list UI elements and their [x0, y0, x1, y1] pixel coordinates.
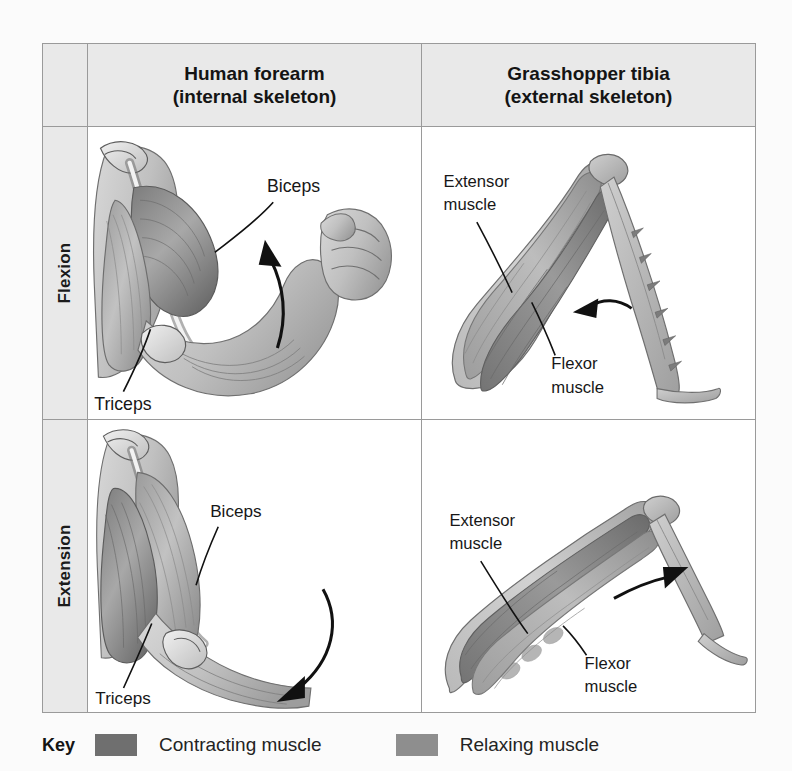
comparison-table-wrapper: Human forearm (internal skeleton) Grassh… — [42, 43, 756, 713]
extension-arrow-shaft — [614, 577, 669, 599]
leader-biceps — [196, 527, 218, 585]
comparison-table: Human forearm (internal skeleton) Grassh… — [42, 43, 756, 713]
key-swatch-relaxing — [396, 734, 438, 756]
key-label-contracting: Contracting muscle — [159, 734, 322, 756]
label-flexor-muscle-line2: muscle — [551, 377, 604, 396]
muscle-antagonism-figure: Human forearm (internal skeleton) Grassh… — [0, 0, 792, 771]
label-biceps: Biceps — [210, 502, 261, 521]
flexion-arrow-head — [573, 298, 598, 318]
label-extensor-muscle-line1: Extensor — [449, 511, 515, 530]
illustration-human-forearm-flexion: Biceps Triceps — [88, 127, 421, 419]
key-title: Key — [42, 735, 75, 756]
grasshopper-flexion-drawing: Extensor muscle Flexor muscle Extensor m… — [422, 127, 755, 419]
label-extensor-muscle-line1: Extensor — [444, 172, 510, 191]
column-header-grasshopper-tibia-line1: Grasshopper tibia — [507, 63, 670, 84]
panel-grasshopper-tibia-extension: Extensor muscle Flexor muscle Extensor m… — [422, 419, 756, 712]
row-header-extension: Extension — [43, 419, 88, 712]
column-header-grasshopper-tibia-line2: (external skeleton) — [505, 86, 673, 107]
leader-flexor — [563, 626, 587, 655]
row-header-flexion-label: Flexion — [55, 242, 75, 303]
column-header-human-forearm: Human forearm (internal skeleton) — [88, 44, 422, 127]
table-corner-cell — [43, 44, 88, 127]
key-item-relaxing: Relaxing muscle — [396, 734, 599, 756]
human-flexion-drawing: Biceps Triceps — [88, 127, 421, 419]
column-header-human-forearm-line1: Human forearm — [184, 63, 324, 84]
label-biceps: Biceps — [267, 176, 320, 196]
key-item-contracting: Contracting muscle — [95, 734, 322, 756]
row-header-extension-label: Extension — [55, 524, 75, 607]
illustration-human-forearm-extension: Biceps Triceps — [88, 420, 421, 712]
label-extensor-muscle-line2: muscle — [444, 195, 497, 214]
illustration-grasshopper-tibia-flexion: Extensor muscle Flexor muscle Extensor m… — [422, 127, 755, 419]
label-flexor-muscle-line1: Flexor — [551, 354, 598, 373]
tarsus-foot — [698, 634, 747, 665]
panel-human-forearm-flexion: Biceps Triceps — [88, 126, 422, 419]
column-header-human-forearm-line2: (internal skeleton) — [173, 86, 337, 107]
key-label-relaxing: Relaxing muscle — [460, 734, 599, 756]
panel-human-forearm-extension: Biceps Triceps — [88, 419, 422, 712]
key-swatch-contracting — [95, 734, 137, 756]
tarsus-foot — [657, 388, 720, 403]
flexion-arrow-head — [259, 239, 282, 266]
extension-arrow-shaft — [299, 589, 333, 688]
key-legend: Key Contracting muscle Relaxing muscle — [42, 728, 756, 762]
table-row-extension: Extension — [43, 419, 756, 712]
grasshopper-extension-drawing: Extensor muscle Flexor muscle Extensor m… — [422, 420, 755, 712]
label-flexor-muscle-line2: muscle — [585, 677, 638, 696]
panel-grasshopper-tibia-flexion: Extensor muscle Flexor muscle Extensor m… — [422, 126, 756, 419]
tibia-outline — [600, 177, 679, 394]
label-triceps: Triceps — [95, 689, 150, 708]
row-header-flexion: Flexion — [43, 126, 88, 419]
human-extension-drawing: Biceps Triceps — [88, 420, 421, 712]
column-header-grasshopper-tibia: Grasshopper tibia (external skeleton) — [422, 44, 756, 127]
table-row-flexion: Flexion — [43, 126, 756, 419]
label-flexor-muscle-line1: Flexor — [585, 654, 632, 673]
table-header-row: Human forearm (internal skeleton) Grassh… — [43, 44, 756, 127]
leader-extensor — [477, 222, 512, 293]
label-extensor-muscle-line2: muscle — [449, 534, 502, 553]
label-triceps: Triceps — [94, 394, 151, 414]
illustration-grasshopper-tibia-extension: Extensor muscle Flexor muscle Extensor m… — [422, 420, 755, 712]
forearm-outline — [138, 613, 311, 708]
